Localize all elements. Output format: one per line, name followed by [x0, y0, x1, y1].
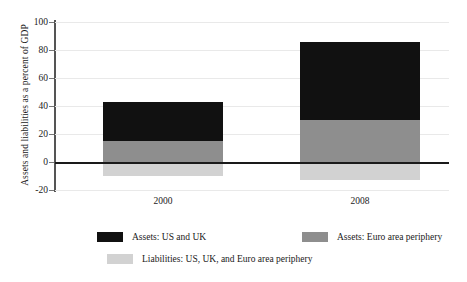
- y-tick-label-20: 20: [14, 129, 48, 139]
- y-tick-label-100: 100: [14, 17, 48, 27]
- gridline-neg20: [55, 190, 449, 191]
- legend-label-liabilities: Liabilities: US, UK, and Euro area perip…: [142, 254, 312, 265]
- legend-swatch-assets-euro-periphery: [302, 232, 328, 242]
- bar-segment-assets-euro-2000[interactable]: [103, 141, 223, 162]
- legend-item-assets-us-uk[interactable]: Assets: US and UK: [97, 230, 206, 244]
- y-tick-label-neg20: -20: [14, 185, 48, 195]
- y-tick-mark-100: [49, 22, 54, 23]
- legend-swatch-assets-us-uk: [97, 232, 123, 242]
- y-tick-mark-20: [49, 134, 54, 135]
- bar-group-2008[interactable]: [300, 22, 420, 190]
- plot-area: [55, 22, 449, 190]
- y-tick-mark-80: [49, 50, 54, 51]
- legend-label-assets-euro-periphery: Assets: Euro area periphery: [337, 232, 442, 243]
- y-tick-mark-40: [49, 106, 54, 107]
- legend-item-assets-euro-periphery[interactable]: Assets: Euro area periphery: [302, 230, 442, 244]
- gridline-zero: [55, 162, 449, 164]
- y-tick-mark-60: [49, 78, 54, 79]
- bar-segment-liabilities-2000[interactable]: [103, 162, 223, 176]
- chart-legend: Assets: US and UK Assets: Euro area peri…: [0, 228, 467, 278]
- bar-segment-assets-euro-2008[interactable]: [300, 120, 420, 162]
- legend-item-liabilities[interactable]: Liabilities: US, UK, and Euro area perip…: [107, 252, 312, 266]
- y-tick-label-80: 80: [14, 45, 48, 55]
- bar-segment-liabilities-2008[interactable]: [300, 162, 420, 180]
- bar-group-2000[interactable]: [103, 22, 223, 190]
- legend-label-assets-us-uk: Assets: US and UK: [132, 232, 206, 243]
- y-tick-mark-0: [49, 162, 54, 163]
- x-tick-label-2000: 2000: [123, 196, 203, 206]
- bar-segment-assets-us-uk-2000[interactable]: [103, 102, 223, 141]
- x-tick-label-2008: 2008: [320, 196, 400, 206]
- y-tick-label-40: 40: [14, 101, 48, 111]
- bar-segment-assets-us-uk-2008[interactable]: [300, 42, 420, 120]
- chart-figure: Assets and liabilities as a percent of G…: [0, 0, 467, 282]
- legend-swatch-liabilities: [107, 254, 133, 264]
- y-tick-label-0: 0: [14, 157, 48, 167]
- y-tick-label-60: 60: [14, 73, 48, 83]
- y-tick-mark-neg20: [49, 190, 54, 191]
